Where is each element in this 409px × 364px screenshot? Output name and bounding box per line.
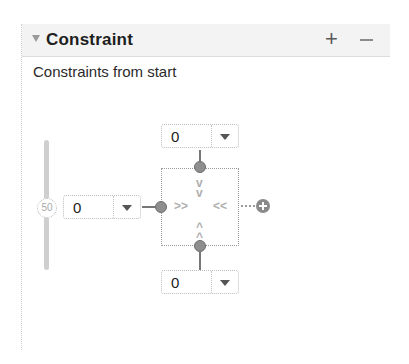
top-margin-value[interactable]: 0 [171,128,179,145]
bias-slider-knob[interactable]: 50 [37,198,57,218]
chevron-left-icon: << [213,201,227,211]
disclosure-triangle-icon[interactable] [32,35,40,42]
dropdown-separator [211,125,212,147]
panel-left-border [21,24,22,350]
bottom-margin-dropdown[interactable]: 0 [161,270,239,294]
constraints-subtitle: Constraints from start [33,63,176,80]
add-constraint-button[interactable]: + [325,27,338,51]
remove-constraint-button[interactable] [360,39,373,41]
start-margin-value[interactable]: 0 [73,199,81,216]
start-margin-dropdown[interactable]: 0 [63,195,141,219]
bottom-margin-value[interactable]: 0 [171,274,179,291]
chevron-down-icon[interactable] [220,134,230,140]
start-anchor-handle[interactable] [155,201,167,213]
chevron-down-icon[interactable] [122,205,132,211]
bottom-connector-line [199,250,201,270]
section-title: Constraint [46,30,133,50]
start-connector-line [142,206,156,208]
plus-circle-icon[interactable] [256,199,270,213]
top-anchor-handle[interactable] [194,161,206,173]
chevron-down-icon[interactable] [220,280,230,286]
dropdown-separator [113,196,114,218]
top-margin-dropdown[interactable]: 0 [161,124,239,148]
constraint-section-header[interactable]: Constraint + [22,24,390,57]
end-dotted-connector [241,205,255,207]
chevron-up-icon: ^^ [196,222,203,242]
chevron-right-icon: >> [174,201,188,211]
chevron-down-icon: vv [196,178,203,198]
dropdown-separator [211,271,212,293]
